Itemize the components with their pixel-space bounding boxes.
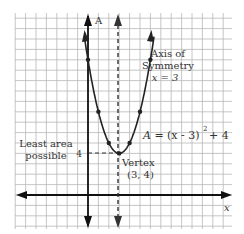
data-point bbox=[117, 151, 121, 155]
axis-title-line1: Axis of bbox=[150, 48, 186, 59]
arrow-up-icon bbox=[84, 14, 92, 26]
vertex-coords: (3, 4) bbox=[127, 169, 154, 180]
least-area-line2: possible bbox=[25, 150, 66, 161]
data-point bbox=[127, 141, 131, 145]
equation-exponent: 2 bbox=[203, 125, 207, 133]
y-tick-4: 4 bbox=[76, 149, 82, 159]
data-point bbox=[138, 110, 142, 114]
x-axis bbox=[16, 191, 232, 199]
parabola-chart: A x Axis of Symmetry x = 3 Least area po… bbox=[0, 0, 244, 234]
equation-base: (x - 3) bbox=[167, 129, 200, 142]
data-point bbox=[86, 58, 90, 62]
data-point bbox=[107, 141, 111, 145]
equation-constant: + 4 bbox=[209, 129, 229, 142]
axis-title-line2: Symmetry bbox=[142, 60, 194, 71]
arrow-right-icon bbox=[221, 191, 232, 199]
arrow-left-icon bbox=[16, 191, 27, 199]
least-area-line1: Least area bbox=[19, 138, 73, 149]
vertex-label: Vertex bbox=[121, 157, 155, 168]
y-axis-label: A bbox=[94, 15, 103, 26]
data-point bbox=[96, 110, 100, 114]
x-axis-label: x bbox=[224, 202, 230, 213]
arrow-up-icon bbox=[114, 14, 122, 26]
axis-equation: x = 3 bbox=[152, 72, 179, 83]
grid bbox=[15, 13, 232, 229]
equation-lhs: A = bbox=[142, 129, 164, 142]
